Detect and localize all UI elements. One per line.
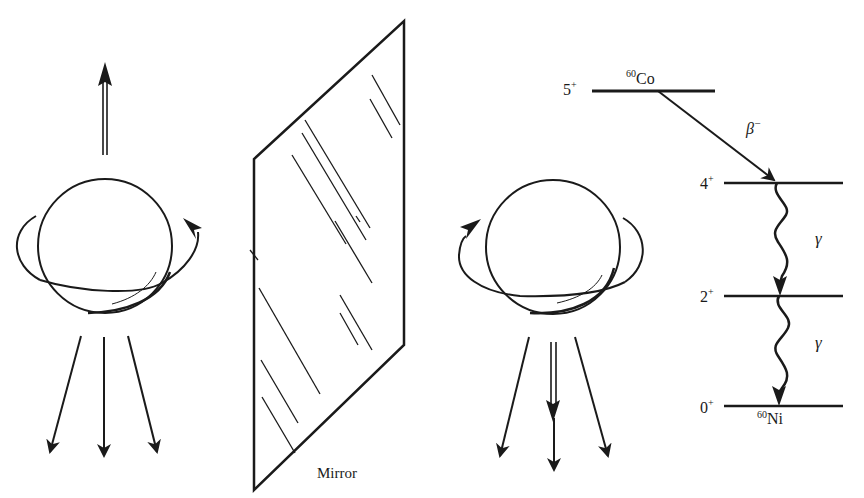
level-label-4plus: 4+ (700, 173, 714, 192)
level-label-0plus: 0+ (700, 397, 714, 416)
beta-label: β− (745, 117, 761, 138)
parity-violation-diagram: Mirror 5+ 60Co β− 4+ (0, 0, 864, 498)
gamma-label-2: γ (815, 333, 823, 352)
gamma-label-1: γ (815, 229, 823, 248)
electron-emission-arrows (500, 337, 608, 470)
decay-scheme: 5+ 60Co β− 4+ γ 2+ γ 0+ 60Ni (563, 68, 843, 427)
rotation-ring-front (459, 236, 625, 296)
rotation-ring-back (17, 216, 40, 280)
mirror: Mirror (250, 21, 404, 490)
nucleus-sphere (38, 179, 172, 313)
level-label-2plus: 2+ (700, 286, 714, 305)
spin-up-arrow-icon (98, 62, 112, 155)
beta-transition-arrow (658, 91, 774, 180)
parent-nuclide-label: 60Co (626, 68, 655, 87)
spin-down-arrow-icon (546, 342, 560, 470)
left-nucleus (17, 62, 202, 456)
electron-emission-arrows (50, 336, 157, 456)
rotation-ring-back (623, 218, 643, 282)
right-nucleus (459, 180, 643, 470)
level-label-parent: 5+ (563, 79, 577, 98)
mirror-label: Mirror (317, 465, 357, 481)
rotation-arrowhead-icon (460, 219, 481, 239)
gamma-transition-1 (775, 183, 787, 283)
rotation-ring-front (40, 232, 198, 291)
gamma-transition-2 (775, 296, 789, 393)
daughter-nuclide-label: 60Ni (757, 409, 784, 427)
